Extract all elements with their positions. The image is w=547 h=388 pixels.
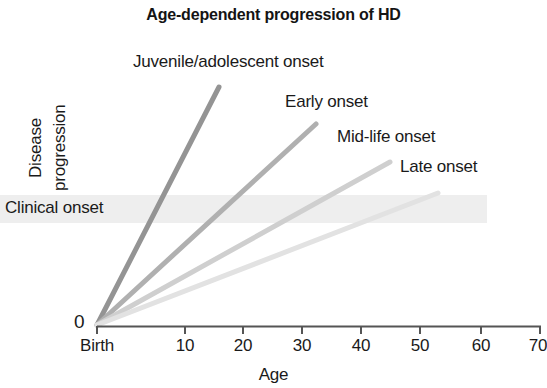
x-tick-label-60: 60 bbox=[472, 336, 491, 356]
x-tick-label-70: 70 bbox=[529, 336, 547, 356]
y-axis-title-line-1: Disease bbox=[24, 60, 48, 235]
series-label-juvenile: Juvenile/adolescent onset bbox=[133, 52, 324, 72]
x-tick-label-birth: Birth bbox=[80, 336, 114, 356]
x-tick-label-20: 20 bbox=[234, 336, 253, 356]
series-label-late: Late onset bbox=[400, 157, 477, 177]
x-tick-label-10: 10 bbox=[176, 336, 195, 356]
y-axis-title: Disease progression bbox=[18, 60, 76, 235]
chart-figure: Age-dependent progression of HD Juvenile… bbox=[0, 0, 547, 388]
x-tick-label-40: 40 bbox=[352, 336, 371, 356]
x-tick-label-50: 50 bbox=[411, 336, 430, 356]
y-axis-title-line-2: progression bbox=[48, 60, 72, 235]
series-line-early bbox=[97, 124, 316, 325]
x-axis-title: Age bbox=[0, 365, 547, 385]
series-label-early: Early onset bbox=[285, 92, 368, 112]
series-label-midlife: Mid-life onset bbox=[337, 127, 435, 147]
x-tick-label-30: 30 bbox=[293, 336, 312, 356]
y-axis-origin-label: 0 bbox=[74, 311, 85, 333]
